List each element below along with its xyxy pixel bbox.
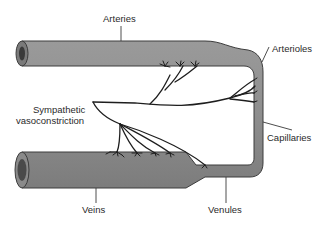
label-sympathetic-line1: Sympathetic — [33, 104, 85, 115]
artery-opening — [16, 41, 28, 66]
label-arteries: Arteries — [103, 13, 136, 24]
capillaries-leader — [263, 122, 292, 130]
label-capillaries: Capillaries — [267, 132, 311, 143]
vein-opening — [15, 152, 29, 188]
label-arterioles: Arterioles — [272, 43, 312, 54]
label-venules: Venules — [208, 204, 242, 215]
label-veins: Veins — [82, 204, 105, 215]
arterioles-leader — [262, 47, 269, 62]
label-sympathetic-line2: vasoconstriction — [16, 115, 84, 126]
